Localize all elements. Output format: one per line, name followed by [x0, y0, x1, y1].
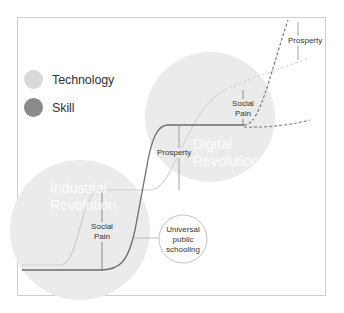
era-label-line: Digital: [193, 136, 259, 153]
label-line: Pain: [231, 109, 255, 119]
era-label-line: Revolution: [193, 153, 259, 170]
legend-label: Technology: [52, 73, 114, 87]
label-line: Social: [90, 222, 114, 232]
legend-label: Skill: [52, 101, 74, 115]
prosperity-label-1: Prosperty: [157, 148, 191, 158]
era-label-line: Industrial: [50, 180, 116, 197]
callout-line: public: [160, 235, 206, 245]
label-line: Prosperty: [288, 36, 322, 46]
technology-swatch-icon: [24, 70, 43, 89]
prosperity-label-2: Prosperty: [288, 36, 322, 46]
callout-line: Universal: [160, 225, 206, 235]
label-line: Social: [231, 99, 255, 109]
callout-line: schooling: [160, 245, 206, 255]
social-pain-label-industrial: Social Pain: [90, 222, 114, 242]
industrial-revolution-label: Industrial Revolution: [50, 180, 116, 214]
legend-item-skill: Skill: [24, 98, 74, 117]
digital-revolution-label: Digital Revolution: [193, 136, 259, 170]
label-line: Prosperty: [157, 148, 191, 158]
label-line: Pain: [90, 232, 114, 242]
era-label-line: Revolution: [50, 197, 116, 214]
skill-swatch-icon: [24, 98, 43, 117]
social-pain-label-digital: Social Pain: [231, 99, 255, 119]
legend-item-technology: Technology: [24, 70, 114, 89]
universal-public-schooling-callout: Universal public schooling: [160, 225, 206, 255]
